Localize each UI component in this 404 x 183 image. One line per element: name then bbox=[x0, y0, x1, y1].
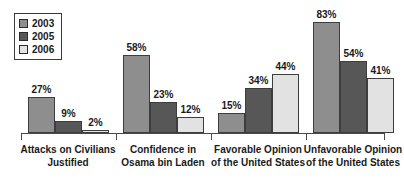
category-label-line: of the United States bbox=[206, 156, 310, 169]
category-label-line: Justified bbox=[16, 156, 120, 169]
bar-chart: 2003 2005 2006 27%9%2%58%23%12%15%34%44%… bbox=[0, 0, 404, 183]
bar-value-2006-group-4: 41% bbox=[361, 65, 400, 76]
category-label-line: Unfavorable Opinion bbox=[301, 143, 404, 156]
x-axis-line bbox=[21, 133, 384, 134]
bar-2006-group-4 bbox=[367, 78, 394, 133]
bar-2005-group-3 bbox=[245, 88, 272, 133]
category-label-line: Osama bin Laden bbox=[111, 156, 215, 169]
category-label-line: Attacks on Civilians bbox=[16, 143, 120, 156]
plot-area: 27%9%2%58%23%12%15%34%44%83%54%41% bbox=[0, 0, 404, 134]
bar-value-2006-group-2: 12% bbox=[171, 104, 210, 115]
bar-value-2005-group-4: 54% bbox=[334, 48, 373, 59]
bar-value-2003-group-4: 83% bbox=[307, 9, 346, 20]
bar-2006-group-3 bbox=[272, 74, 299, 133]
bar-value-2005-group-2: 23% bbox=[144, 89, 183, 100]
bar-value-2003-group-1: 27% bbox=[22, 84, 61, 95]
category-label-line: Favorable Opinion bbox=[206, 143, 310, 156]
category-label-line: of the United States bbox=[301, 156, 404, 169]
bar-value-2006-group-1: 2% bbox=[76, 117, 115, 128]
bar-2003-group-3 bbox=[218, 113, 245, 133]
axis-tick-1 bbox=[21, 133, 22, 140]
axis-tick-3 bbox=[211, 133, 212, 140]
axis-tick-5 bbox=[384, 133, 385, 140]
axis-tick-4 bbox=[306, 133, 307, 140]
x-axis-category-labels: Attacks on CiviliansJustifiedConfidence … bbox=[0, 143, 404, 183]
bar-2006-group-2 bbox=[177, 117, 204, 133]
bar-value-2006-group-3: 44% bbox=[266, 61, 305, 72]
category-label-3: Favorable Opinionof the United States bbox=[206, 143, 310, 169]
category-label-4: Unfavorable Opinionof the United States bbox=[301, 143, 404, 169]
axis-tick-2 bbox=[116, 133, 117, 140]
category-label-1: Attacks on CiviliansJustified bbox=[16, 143, 120, 169]
bar-value-2003-group-2: 58% bbox=[117, 42, 156, 53]
category-label-line: Confidence in bbox=[111, 143, 215, 156]
category-label-2: Confidence inOsama bin Laden bbox=[111, 143, 215, 169]
bar-2003-group-4 bbox=[313, 22, 340, 133]
